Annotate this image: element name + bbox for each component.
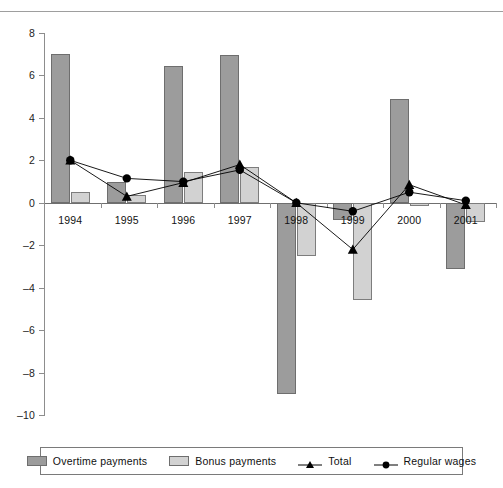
legend-item-overtime-payments: Overtime payments [27,455,147,467]
legend-label-total: Total [328,455,351,467]
line-total [70,160,466,249]
legend-item-bonus-payments: Bonus payments [169,455,276,467]
marker-total-1995 [122,191,132,200]
legend-label-regular-wages: Regular wages [404,455,477,467]
x-axis-label-2001: 2001 [454,214,478,226]
plot-area: 86420–2–4–6–8–10 19941995199619971998199… [44,33,496,415]
circle-marker-icon [374,456,398,466]
y-axis-tick-label: 0 [29,197,35,209]
overtime-swatch-icon [27,456,47,466]
legend-label-bonus-payments: Bonus payments [195,455,276,467]
x-axis-label-1998: 1998 [284,214,308,226]
y-axis-tick-label: 2 [29,154,35,166]
x-axis-label-2000: 2000 [397,214,421,226]
line-series-layer [44,33,496,415]
y-axis-tick-label: 8 [29,27,35,39]
marker-regular-wages-1996 [179,177,187,185]
legend-item-total: Total [298,455,351,467]
bonus-swatch-icon [169,456,189,466]
legend-label-overtime-payments: Overtime payments [53,455,147,467]
marker-regular-wages-2000 [405,188,413,196]
x-axis-label-1997: 1997 [228,214,252,226]
y-axis-tick-label: –10 [17,409,35,421]
marker-total-2000 [404,180,414,189]
x-axis-label-1996: 1996 [171,214,195,226]
x-axis-tick [496,203,497,208]
marker-regular-wages-1998 [292,199,300,207]
y-axis-tick-label: –6 [23,324,35,336]
top-divider-rule [0,11,503,12]
y-axis-tick-label: –4 [23,282,35,294]
triangle-marker-icon [298,456,322,466]
y-axis-tick-label: –8 [23,367,35,379]
x-axis-label-1995: 1995 [115,214,139,226]
y-axis-tick-label: –2 [23,239,35,251]
marker-regular-wages-2001 [462,197,470,205]
chart-legend: Overtime payments Bonus payments Total [40,447,463,475]
chart-page: 86420–2–4–6–8–10 19941995199619971998199… [0,0,503,488]
x-axis-label-1994: 1994 [58,214,82,226]
x-axis-label-1999: 1999 [341,214,365,226]
y-axis-tick-label: 4 [29,112,35,124]
legend-item-regular-wages: Regular wages [374,455,477,467]
y-axis-tick [39,415,45,416]
marker-regular-wages-1994 [66,156,74,164]
y-axis-tick-label: 6 [29,69,35,81]
marker-regular-wages-1995 [123,174,131,182]
marker-regular-wages-1997 [236,166,244,174]
